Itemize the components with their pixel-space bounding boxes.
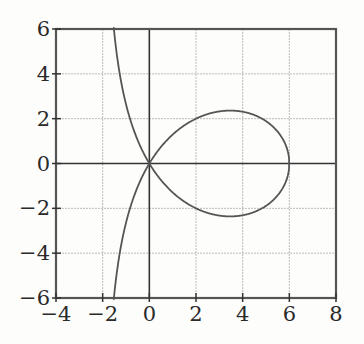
y-tick-label: −6 bbox=[19, 286, 50, 310]
x-tick-label: −2 bbox=[87, 302, 118, 326]
strophoid-chart: −4−202468 −6−4−20246 bbox=[0, 0, 364, 344]
y-tick-label: 4 bbox=[37, 62, 50, 86]
tick-marks bbox=[52, 29, 336, 302]
y-tick-label: −2 bbox=[19, 196, 50, 220]
x-tick-label: 8 bbox=[329, 302, 342, 326]
x-tick-label: 4 bbox=[236, 302, 249, 326]
y-tick-label: 2 bbox=[37, 107, 50, 131]
x-tick-label: 6 bbox=[283, 302, 296, 326]
y-tick-label: −4 bbox=[19, 241, 50, 265]
y-tick-labels: −6−4−20246 bbox=[19, 17, 50, 310]
x-tick-labels: −4−202468 bbox=[41, 302, 343, 326]
y-tick-label: 6 bbox=[37, 17, 50, 41]
x-tick-label: 0 bbox=[143, 302, 156, 326]
y-tick-label: 0 bbox=[37, 152, 50, 176]
x-tick-label: 2 bbox=[189, 302, 202, 326]
